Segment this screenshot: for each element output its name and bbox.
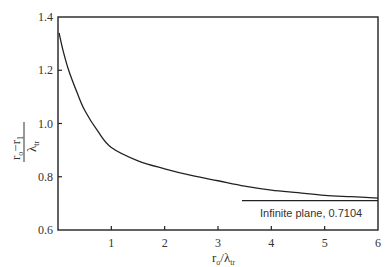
y-tick-label: 1.4 bbox=[38, 10, 53, 24]
infinite-plane-label: Infinite plane, 0.7104 bbox=[260, 207, 362, 219]
data-series bbox=[59, 33, 378, 198]
x-tick-label: 5 bbox=[322, 236, 328, 250]
x-tick-label: 6 bbox=[375, 236, 381, 250]
x-tick-label: 3 bbox=[215, 236, 221, 250]
x-tick-label: 2 bbox=[162, 236, 168, 250]
plot-border bbox=[58, 17, 378, 230]
chart: 0.60.81.01.21.4 123456 Infinite plane, 0… bbox=[0, 0, 386, 267]
svg-text:λtr: λtr bbox=[24, 140, 41, 152]
y-tick-label: 1.2 bbox=[38, 63, 53, 77]
plot-frame bbox=[58, 17, 378, 230]
x-tick-label: 1 bbox=[108, 236, 114, 250]
x-axis-label: ro/λtr bbox=[212, 250, 236, 267]
annotation-infinite-plane: Infinite plane, 0.7104 bbox=[242, 201, 378, 219]
y-tick-label: 1.0 bbox=[38, 117, 53, 131]
y-tick-label: 0.8 bbox=[38, 170, 53, 184]
x-tick-label: 4 bbox=[268, 236, 274, 250]
svg-text:ro−r1: ro−r1 bbox=[8, 136, 25, 160]
series-curve bbox=[59, 33, 378, 198]
y-axis-label: ro−r1 λtr bbox=[8, 122, 41, 162]
y-tick-label: 0.6 bbox=[38, 223, 53, 237]
